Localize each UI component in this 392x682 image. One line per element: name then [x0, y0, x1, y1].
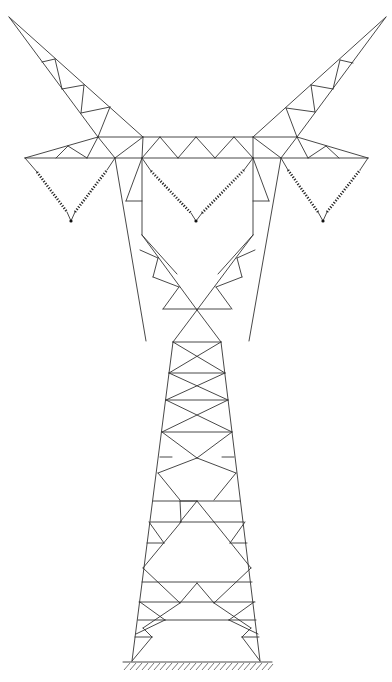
insulator-right	[281, 158, 368, 223]
tower-body	[132, 342, 260, 661]
crossarm-truss	[25, 137, 368, 158]
insulator-left	[25, 158, 115, 223]
ground-line	[123, 662, 273, 670]
left-peak-arm	[9, 17, 143, 137]
insulator-center	[142, 158, 253, 223]
transmission-tower-diagram: Electricity transmission tower (lattice …	[0, 0, 392, 682]
right-peak-arm	[253, 17, 386, 137]
tower-waist	[115, 158, 281, 342]
